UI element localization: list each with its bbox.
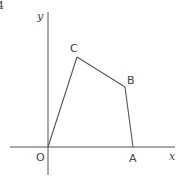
point-label-c: C (70, 42, 78, 55)
point-label-b: B (127, 74, 135, 87)
point-label-o: O (36, 151, 45, 164)
edge-oc (48, 57, 77, 147)
x-axis-label: x (169, 150, 176, 163)
y-axis-label: y (36, 10, 44, 23)
edge-cb (77, 57, 125, 87)
coordinate-diagram: 4 y x O A B C (0, 0, 182, 178)
figure-number: 4 (0, 0, 4, 12)
point-label-a: A (129, 152, 137, 165)
edge-ba (125, 87, 133, 147)
